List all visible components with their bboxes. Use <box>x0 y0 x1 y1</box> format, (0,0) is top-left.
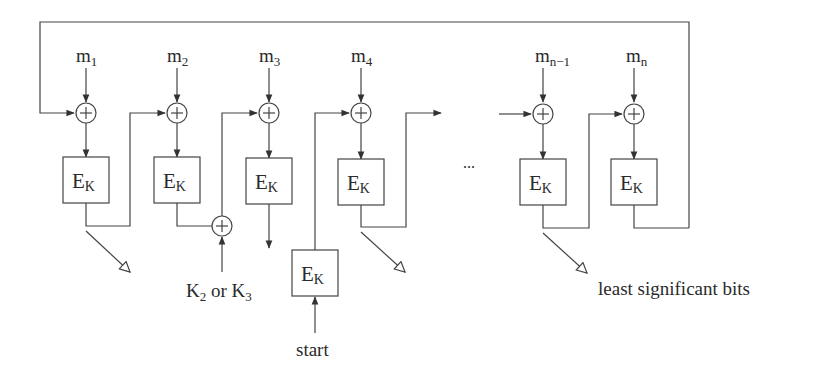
xor-icon <box>351 103 371 123</box>
cipher-block-4: EK <box>338 159 384 205</box>
message-label-n-minus-1: mn−1 <box>535 45 570 69</box>
cbc-mac-diagram: m1 m2 m3 m4 mn−1 mn <box>0 0 827 384</box>
xor-icon <box>259 103 279 123</box>
ellipsis: ... <box>463 154 475 171</box>
message-labels: m1 m2 m3 m4 mn−1 mn <box>76 45 648 69</box>
cipher-block-2: EK <box>154 157 200 203</box>
message-label-n: mn <box>626 45 648 69</box>
cipher-block-1: EK <box>63 157 109 203</box>
output-label: least significant bits <box>598 278 750 299</box>
start-label: start <box>296 339 329 360</box>
xor-icon <box>167 103 187 123</box>
xor-icon <box>624 104 644 124</box>
cipher-block-n: EK <box>611 159 657 205</box>
message-label-1: m1 <box>76 45 97 69</box>
cipher-block-n-minus-1: EK <box>520 159 566 205</box>
xor-to-cipher-arrows <box>86 123 634 159</box>
cipher-block-start: EK <box>292 250 338 296</box>
cipher-blocks: EK EK EK EK EK EK EK <box>63 157 657 296</box>
message-label-3: m3 <box>259 45 280 69</box>
xor-icon <box>533 104 553 124</box>
cipher-block-3: EK <box>246 158 292 204</box>
key-label: K2 or K3 <box>186 280 252 304</box>
key-xor-icon <box>212 216 232 236</box>
message-label-2: m2 <box>167 45 188 69</box>
message-arrows <box>86 68 634 102</box>
xor-icon <box>76 103 96 123</box>
message-label-4: m4 <box>351 45 373 69</box>
